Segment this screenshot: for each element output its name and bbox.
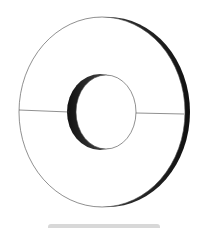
inner-hole-opening — [76, 75, 136, 149]
washer-svg — [0, 0, 204, 228]
bottom-bar — [48, 224, 160, 228]
